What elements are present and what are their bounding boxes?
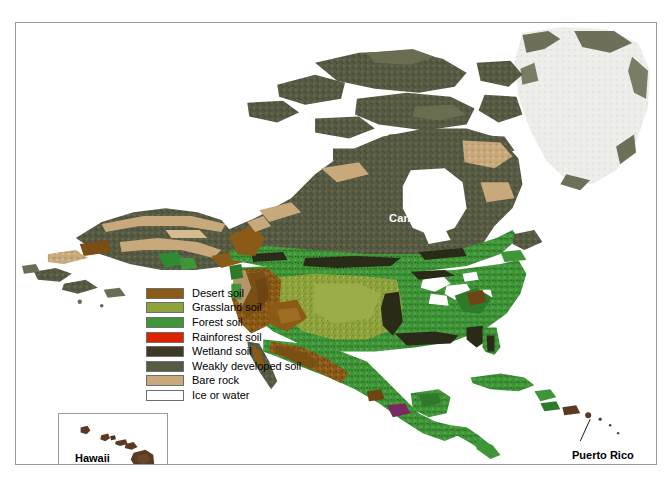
legend-label: Weakly developed soil: [192, 361, 301, 372]
legend-swatch: [146, 346, 184, 357]
legend-row: Weakly developed soil: [146, 359, 291, 374]
legend-row: Wetland soil: [146, 344, 291, 359]
legend-swatch: [146, 375, 184, 386]
legend-row: Ice or water: [146, 388, 291, 403]
legend-row: Desert soil: [146, 286, 291, 301]
legend-row: Forest soil: [146, 315, 291, 330]
map-legend: Desert soilGrassland soilForest soilRain…: [146, 286, 291, 403]
map-frame: Canada United States Mexico Puerto Rico …: [15, 22, 657, 465]
legend-label: Rainforest soil: [192, 332, 262, 343]
legend-swatch: [146, 317, 184, 328]
legend-swatch: [146, 302, 184, 313]
hawaii-inset: Hawaii: [58, 413, 168, 465]
legend-row: Rainforest soil: [146, 330, 291, 345]
legend-label: Forest soil: [192, 317, 243, 328]
legend-row: Grassland soil: [146, 301, 291, 316]
soil-map-figure: Canada United States Mexico Puerto Rico …: [0, 0, 672, 484]
map-label-puerto-rico: Puerto Rico: [572, 449, 634, 461]
legend-label: Ice or water: [192, 390, 249, 401]
legend-swatch: [146, 390, 184, 401]
legend-label: Desert soil: [192, 288, 244, 299]
legend-swatch: [146, 288, 184, 299]
legend-label: Bare rock: [192, 375, 239, 386]
legend-label: Grassland soil: [192, 302, 262, 313]
puerto-rico-island: [585, 412, 591, 418]
legend-row: Bare rock: [146, 374, 291, 389]
hawaii-inset-label: Hawaii: [75, 452, 110, 464]
map-canvas: [16, 23, 656, 464]
legend-swatch: [146, 332, 184, 343]
legend-swatch: [146, 361, 184, 372]
legend-label: Wetland soil: [192, 346, 252, 357]
